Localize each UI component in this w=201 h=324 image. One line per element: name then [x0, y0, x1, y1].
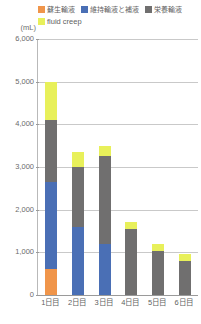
legend-label: fluid creep — [47, 18, 82, 26]
legend-item-1: 維持輸液と補液 — [81, 4, 139, 15]
bar-segment[interactable] — [45, 120, 57, 182]
x-axis-label: 3日目 — [90, 298, 117, 307]
bar-segment[interactable] — [72, 152, 84, 167]
legend-label: 栄養輸液 — [154, 6, 182, 14]
x-axis-label: 1日目 — [37, 298, 64, 307]
legend-item-2: 栄養輸液 — [145, 4, 182, 15]
bar-slot — [118, 39, 145, 295]
y-axis-tick-label: 5,000 — [15, 78, 34, 86]
stacked-bar[interactable] — [125, 222, 137, 295]
y-axis-tick-label: 0 — [30, 291, 34, 299]
bar-slot — [171, 39, 198, 295]
bar-segment[interactable] — [179, 261, 191, 295]
y-axis-tick-label: 3,000 — [15, 163, 34, 171]
bar-segment[interactable] — [99, 244, 111, 295]
legend-swatch-icon — [145, 6, 152, 13]
stacked-bar[interactable] — [179, 254, 191, 295]
bar-segment[interactable] — [152, 244, 164, 252]
chart-legend: 蘇生輸液 維持輸液と補液 栄養輸液 fluid creep — [38, 4, 198, 28]
legend-label: 蘇生輸液 — [47, 6, 75, 14]
gridline — [38, 295, 198, 296]
bar-slot — [145, 39, 172, 295]
x-axis-label: 6日目 — [170, 298, 197, 307]
legend-swatch-icon — [38, 18, 45, 25]
y-axis-tick-label: 1,000 — [15, 248, 34, 256]
stacked-bar-chart: 蘇生輸液 維持輸液と補液 栄養輸液 fluid creep (mL) 6,000… — [0, 0, 201, 324]
bar-series-container — [38, 39, 198, 295]
y-axis-tick-mark — [36, 295, 39, 296]
y-axis-tick-label: 6,000 — [15, 35, 34, 43]
bar-segment[interactable] — [99, 156, 111, 243]
stacked-bar[interactable] — [99, 146, 111, 295]
bar-slot — [91, 39, 118, 295]
bar-segment[interactable] — [72, 167, 84, 227]
legend-label: 維持輸液と補液 — [90, 6, 139, 14]
stacked-bar[interactable] — [72, 152, 84, 295]
legend-swatch-icon — [81, 6, 88, 13]
bar-segment[interactable] — [45, 82, 57, 120]
bar-segment[interactable] — [99, 146, 111, 157]
x-axis-label: 2日目 — [64, 298, 91, 307]
legend-swatch-icon — [38, 6, 45, 13]
bar-slot — [38, 39, 65, 295]
legend-item-3: fluid creep — [38, 16, 82, 27]
stacked-bar[interactable] — [152, 244, 164, 295]
bar-slot — [65, 39, 92, 295]
stacked-bar[interactable] — [45, 82, 57, 295]
y-axis-tick-label: 4,000 — [15, 120, 34, 128]
bar-segment[interactable] — [125, 229, 137, 295]
bar-segment[interactable] — [72, 227, 84, 295]
x-axis-label: 4日目 — [117, 298, 144, 307]
legend-item-0: 蘇生輸液 — [38, 4, 75, 15]
plot-area: 6,0005,0004,0003,0002,0001,0000 — [37, 39, 197, 295]
y-axis-unit-label: (mL) — [0, 23, 36, 32]
bar-segment[interactable] — [45, 269, 57, 295]
bar-segment[interactable] — [45, 182, 57, 269]
bar-segment[interactable] — [152, 251, 164, 295]
x-axis-label: 5日目 — [144, 298, 171, 307]
y-axis-tick-label: 2,000 — [15, 206, 34, 214]
x-axis-labels: 1日目2日目3日目4日目5日目6日目 — [37, 298, 197, 307]
